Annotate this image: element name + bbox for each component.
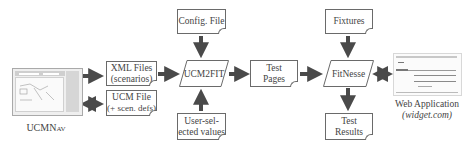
- ucm-file-line2: (+ scen. defs): [107, 103, 156, 114]
- web-app-line1: Web Application: [384, 99, 470, 110]
- web-app-line2: (widget.com): [384, 110, 470, 121]
- ucmnav-label-main: UCMN: [26, 122, 56, 133]
- ucmnav-toolbar-field: [19, 73, 39, 75]
- ucmnav-screenshot: [12, 68, 83, 116]
- ucmnav-canvas: [15, 77, 64, 112]
- ucmnav-side-panel: [66, 71, 79, 112]
- xml-files-doc: XML Files (scenarios): [106, 61, 157, 86]
- user-values-line1: User-sel-: [178, 116, 225, 127]
- fitnesse-process: FitNesse: [323, 60, 374, 87]
- web-application-screenshot: [393, 53, 462, 96]
- test-results-doc: Test Results: [325, 113, 373, 140]
- webapp-line: [408, 70, 456, 71]
- ucmnav-toolbar-field: [43, 73, 59, 75]
- ucm-map-sketch: [16, 78, 65, 113]
- ucm2fit-process: UCM2FIT: [179, 60, 229, 87]
- test-pages-line1: Test: [263, 63, 285, 74]
- user-values-line2: ected values: [178, 127, 225, 138]
- test-pages-line2: Pages: [263, 74, 285, 85]
- web-application-label: Web Application (widget.com): [384, 99, 470, 121]
- fitnesse-label: FitNesse: [332, 69, 365, 79]
- xml-files-line2: (scenarios): [111, 74, 153, 85]
- ucmnav-label: UCMNAV: [10, 122, 82, 135]
- xml-files-line1: XML Files: [111, 63, 153, 74]
- webapp-footer-line: [396, 92, 458, 93]
- config-file-label: Config. File: [179, 16, 225, 27]
- ucmnav-label-sub: AV: [56, 125, 65, 133]
- ucm-file-doc: UCM File (+ scen. defs): [106, 90, 157, 116]
- config-file-doc: Config. File: [177, 9, 226, 34]
- fixtures-doc: Fixtures: [325, 9, 373, 34]
- test-results-label: Test Results: [326, 116, 372, 138]
- webapp-line: [414, 81, 456, 82]
- webapp-line: [418, 86, 432, 87]
- webapp-line: [398, 62, 404, 63]
- test-pages-doc: Test Pages: [250, 60, 298, 87]
- webapp-line: [414, 75, 456, 76]
- webapp-line: [396, 69, 408, 71]
- webapp-header-bar: [396, 56, 457, 58]
- ucm2fit-label: UCM2FIT: [184, 69, 225, 79]
- user-selected-values-doc: User-sel- ected values: [177, 113, 226, 140]
- ucm-file-line1: UCM File: [107, 92, 156, 103]
- fixtures-label: Fixtures: [333, 16, 364, 27]
